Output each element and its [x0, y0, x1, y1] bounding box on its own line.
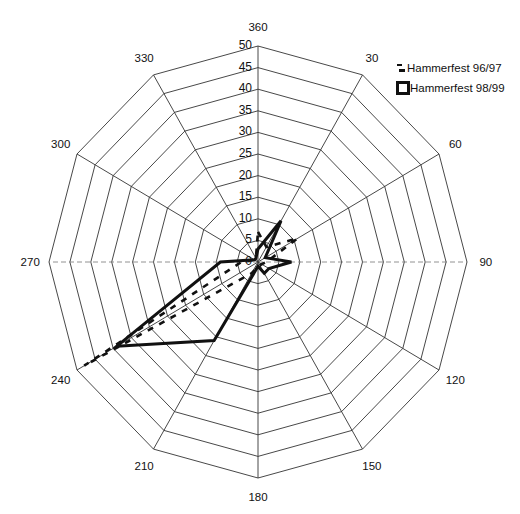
- svg-text:50: 50: [239, 38, 253, 52]
- svg-text:210: 210: [135, 460, 154, 472]
- svg-text:30: 30: [239, 124, 253, 138]
- legend-label: Hammerfest 96/97: [407, 62, 502, 74]
- svg-text:10: 10: [239, 211, 253, 225]
- svg-text:60: 60: [449, 138, 462, 150]
- square-marker-icon: [396, 81, 410, 95]
- legend: Hammerfest 96/97 Hammerfest 98/99: [396, 58, 505, 98]
- svg-text:300: 300: [51, 138, 70, 150]
- legend-item-96-97: Hammerfest 96/97: [396, 58, 505, 78]
- legend-item-98-99: Hammerfest 98/99: [396, 78, 505, 98]
- legend-label: Hammerfest 98/99: [410, 82, 505, 94]
- svg-text:40: 40: [239, 81, 253, 95]
- svg-text:270: 270: [21, 256, 40, 268]
- svg-text:330: 330: [135, 52, 154, 64]
- svg-text:90: 90: [479, 256, 492, 268]
- svg-text:15: 15: [239, 189, 253, 203]
- chart-spokes: [49, 46, 467, 478]
- svg-text:150: 150: [362, 460, 381, 472]
- svg-text:20: 20: [239, 168, 253, 182]
- dashed-line-marker-icon: [396, 63, 406, 73]
- svg-text:5: 5: [245, 232, 252, 246]
- svg-text:240: 240: [51, 374, 70, 386]
- svg-text:120: 120: [446, 374, 465, 386]
- svg-text:45: 45: [239, 60, 253, 74]
- svg-text:25: 25: [239, 146, 253, 160]
- radial-tick-labels: 05101520253035404550: [239, 38, 253, 268]
- svg-text:180: 180: [248, 491, 267, 503]
- svg-text:35: 35: [239, 103, 253, 117]
- svg-text:360: 360: [248, 21, 267, 33]
- svg-text:30: 30: [366, 52, 379, 64]
